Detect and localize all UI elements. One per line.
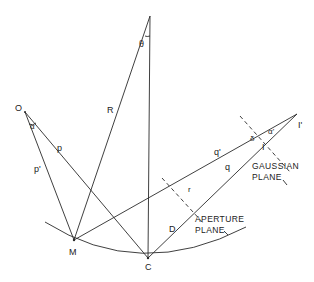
label-C: C bbox=[145, 262, 152, 272]
aperture-plane-label-2: PLANE bbox=[195, 225, 225, 235]
label-p: p bbox=[57, 143, 62, 153]
label-I: I bbox=[262, 142, 265, 152]
label-alpha-right: α' bbox=[268, 127, 275, 136]
label-delta: δ bbox=[250, 134, 255, 143]
label-p-prime: p' bbox=[34, 164, 41, 174]
gaussian-plane-label-2: PLANE bbox=[252, 172, 282, 182]
gaussian-tick bbox=[283, 180, 287, 185]
radius-line-R bbox=[74, 16, 150, 240]
label-M: M bbox=[69, 247, 77, 257]
gaussian-plane-label-1: GAUSSIAN bbox=[252, 161, 299, 171]
ray-p bbox=[25, 112, 148, 258]
label-alpha-left: α bbox=[30, 122, 35, 131]
ray-p-prime bbox=[25, 112, 74, 240]
label-D: D bbox=[169, 224, 176, 234]
optics-diagram: θ R O α p p' M C q' q r D δ α' I I' GAUS… bbox=[0, 0, 314, 282]
label-theta: θ bbox=[139, 39, 144, 49]
label-I-prime: I' bbox=[298, 120, 303, 130]
point-M bbox=[73, 239, 75, 241]
point-C bbox=[147, 257, 149, 259]
aperture-plane-label-1: APERTURE bbox=[195, 214, 244, 224]
point-O bbox=[24, 111, 26, 113]
label-O: O bbox=[15, 103, 22, 113]
label-R: R bbox=[107, 105, 114, 115]
axis-line bbox=[148, 16, 150, 258]
label-q-prime: q' bbox=[214, 147, 221, 157]
label-r: r bbox=[188, 185, 191, 194]
theta-arc bbox=[145, 36, 150, 37]
label-q: q bbox=[225, 162, 230, 172]
